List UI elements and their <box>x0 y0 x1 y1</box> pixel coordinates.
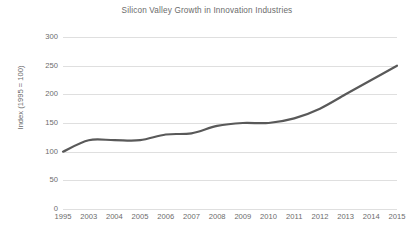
x-tick-label-2004: 2004 <box>100 213 128 221</box>
y-tick-label-100: 100 <box>18 148 58 156</box>
x-tick-label-2010: 2010 <box>255 213 283 221</box>
series-line-index <box>63 66 397 152</box>
y-axis-tick-labels: 050100150200250300 <box>18 33 60 213</box>
x-tick-label-2009: 2009 <box>229 213 257 221</box>
x-tick-label-2006: 2006 <box>152 213 180 221</box>
x-tick-label-2007: 2007 <box>177 213 205 221</box>
y-tick-label-0: 0 <box>18 205 58 213</box>
x-tick-label-2005: 2005 <box>126 213 154 221</box>
x-tick-label-2015: 2015 <box>383 213 411 221</box>
x-tick-label-2013: 2013 <box>332 213 360 221</box>
x-tick-label-2012: 2012 <box>306 213 334 221</box>
x-tick-label-2003: 2003 <box>75 213 103 221</box>
line-chart: Silicon Valley Growth in Innovation Indu… <box>0 0 414 243</box>
x-tick-label-2011: 2011 <box>280 213 308 221</box>
series-line-group <box>63 37 397 209</box>
x-axis-tick-labels: 1995200320042005200620072008200920102011… <box>63 213 397 227</box>
gridline-0 <box>63 209 397 210</box>
y-tick-label-200: 200 <box>18 90 58 98</box>
y-tick-label-250: 250 <box>18 62 58 70</box>
x-tick-label-2014: 2014 <box>357 213 385 221</box>
x-tick-label-2008: 2008 <box>203 213 231 221</box>
plot-area <box>63 37 397 209</box>
y-tick-label-300: 300 <box>18 33 58 41</box>
chart-title: Silicon Valley Growth in Innovation Indu… <box>0 6 414 15</box>
x-tick-label-1995: 1995 <box>49 213 77 221</box>
y-tick-label-50: 50 <box>18 176 58 184</box>
y-tick-label-150: 150 <box>18 119 58 127</box>
